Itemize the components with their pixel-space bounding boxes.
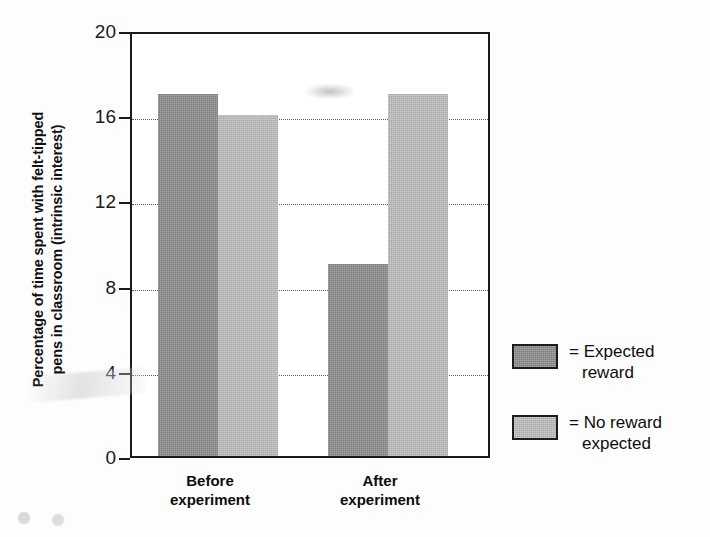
legend-swatch-expected-reward [512, 344, 558, 369]
legend-no-reward-line-1: = No reward [569, 413, 662, 434]
x-category-after-line-1: After [300, 472, 460, 491]
bar-chart-figure: Percentage of time spent with felt-tippe… [0, 0, 710, 537]
y-tick-label-16: 16 [95, 106, 116, 128]
y-tick-mark-4 [119, 373, 130, 375]
y-tick-mark-12 [119, 202, 130, 204]
x-category-label-after: After experiment [300, 472, 460, 510]
legend-expected-reward-line-2: reward [582, 363, 655, 384]
legend-label-expected-reward: = Expected reward [569, 342, 655, 383]
x-category-label-before: Before experiment [130, 472, 290, 510]
y-tick-mark-20 [119, 32, 130, 34]
y-tick-label-12: 12 [95, 191, 116, 213]
y-axis-title-line-2: pens in classroom (intrinsic interest) [48, 112, 67, 387]
chart-legend: = Expected reward = No reward expected [512, 342, 710, 485]
bar-after-no-reward-expected [388, 94, 448, 456]
legend-no-reward-line-2: expected [582, 434, 662, 455]
bar-after-expected-reward [328, 264, 388, 456]
y-tick-label-20: 20 [95, 21, 116, 43]
plot-area [130, 32, 490, 458]
y-axis-title: Percentage of time spent with felt-tippe… [0, 0, 96, 500]
scan-artifact-bottom-marks [6, 508, 126, 528]
x-category-after-line-2: experiment [300, 491, 460, 510]
y-tick-mark-0 [119, 458, 130, 460]
legend-label-no-reward-expected: = No reward expected [569, 413, 662, 454]
y-axis-title-line-1: Percentage of time spent with felt-tippe… [29, 112, 48, 387]
y-tick-mark-8 [119, 288, 130, 290]
legend-swatch-no-reward-expected [512, 415, 558, 440]
bar-before-expected-reward [158, 94, 218, 456]
y-tick-label-8: 8 [105, 277, 116, 299]
x-category-before-line-1: Before [130, 472, 290, 491]
legend-expected-reward-line-1: = Expected [569, 342, 655, 363]
legend-item-expected-reward: = Expected reward [512, 342, 710, 383]
y-tick-label-4: 4 [105, 362, 116, 384]
x-category-before-line-2: experiment [130, 491, 290, 510]
y-tick-label-0: 0 [105, 447, 116, 469]
bar-before-no-reward-expected [218, 115, 278, 456]
y-tick-mark-16 [119, 117, 130, 119]
legend-item-no-reward-expected: = No reward expected [512, 413, 710, 454]
